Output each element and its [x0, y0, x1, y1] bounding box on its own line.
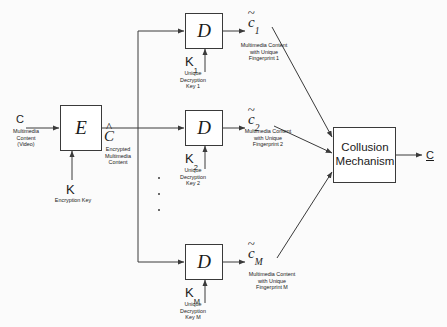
decryption-key-symbol-1: K1: [185, 54, 198, 72]
encryptor-box: [61, 106, 102, 151]
collusion-mechanism-label-line1: Collusion: [333, 141, 397, 155]
collusion-mechanism-label-line2: Mechanism: [333, 155, 397, 169]
fingerprinted-output-caption-1: Multimedia Content with Unique Fingerpri…: [228, 42, 300, 62]
fingerprinted-output-subscript-m: M: [255, 257, 263, 267]
collusion-mechanism-label: Collusion Mechanism: [333, 141, 397, 168]
fingerprinted-output-base-2: ~ c: [248, 111, 255, 128]
decryption-key-letter-1: K: [185, 54, 194, 69]
decryptor-box-2: [186, 111, 223, 146]
decryptor-box-1: [186, 14, 223, 49]
tilde-accent-icon-m: ~: [248, 236, 255, 252]
decryption-key-letter-2: K: [185, 151, 194, 166]
encrypted-output-base: ^ C: [104, 128, 114, 145]
encrypted-output-caption: Encrypted Multimedia Content: [90, 146, 146, 166]
fingerprinted-output-caption-2: Multimedia Content with Unique Fingerpri…: [232, 128, 304, 148]
ellipsis-dot-1: [158, 177, 160, 179]
decryption-key-letter-m: K: [185, 285, 194, 300]
decryption-key-caption-2: Unique Decryption Key 2: [168, 167, 218, 187]
tilde-accent-icon-1: ~: [248, 5, 255, 21]
ellipsis-dot-3: [158, 209, 160, 211]
line-branch-m-to-collusion: [277, 172, 332, 258]
collusion-output-symbol: C: [426, 149, 434, 161]
decryption-key-caption-m: Unique Decryption Key M: [168, 301, 218, 321]
fingerprinted-output-caption-m: Multimedia Content with Unique Fingerpri…: [236, 271, 308, 291]
input-symbol: C: [16, 113, 24, 125]
tilde-accent-icon-2: ~: [248, 102, 255, 118]
fingerprinted-output-symbol-1: ~ c 1: [248, 14, 259, 33]
hat-accent-icon: ^: [106, 119, 112, 135]
fingerprinted-output-subscript-1: 1: [255, 26, 260, 36]
decryption-key-symbol-m: KM: [185, 285, 200, 303]
fingerprinted-output-base-1: ~ c: [248, 14, 255, 31]
encryption-key-symbol-text: K: [66, 182, 75, 197]
fingerprinted-output-symbol-m: ~ c M: [248, 245, 263, 264]
encrypted-output-symbol: ^ C: [104, 128, 114, 145]
input-caption: Multimedia Content (Video): [0, 128, 57, 148]
encryption-key-symbol: K: [66, 182, 75, 197]
block-diagram-canvas: C Multimedia Content (Video) E K Encrypt…: [0, 0, 447, 327]
encryption-key-caption: Encryption Key: [40, 197, 106, 204]
decryptor-box-m: [186, 245, 223, 280]
fingerprinted-output-base-m: ~ c: [248, 245, 255, 262]
decryption-key-caption-1: Unique Decryption Key 1: [168, 70, 218, 90]
decryption-key-symbol-2: K2: [185, 151, 198, 169]
ellipsis-dot-2: [158, 193, 160, 195]
